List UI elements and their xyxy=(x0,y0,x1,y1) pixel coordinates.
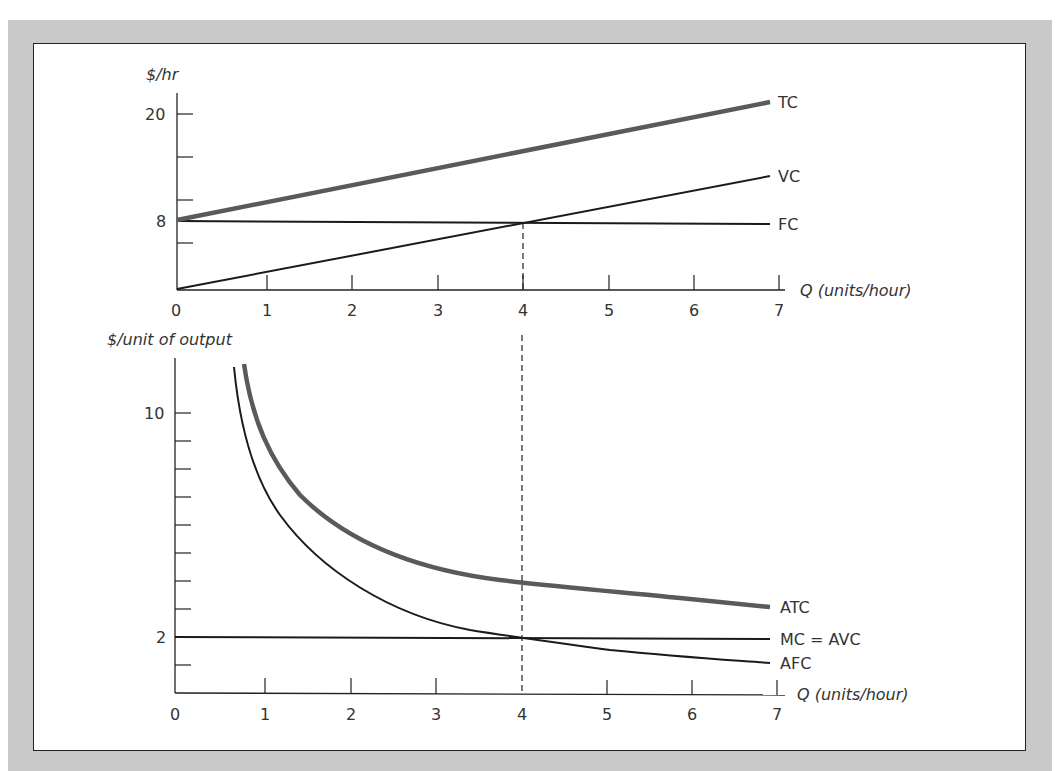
mc-avc-label: MC = AVC xyxy=(780,630,861,649)
top-y-tick-8: 8 xyxy=(156,212,166,231)
bottom-y-ticks xyxy=(175,413,191,665)
top-y-axis-label: $/hr xyxy=(146,65,180,84)
top-x-tick-7: 7 xyxy=(774,301,784,320)
top-x-tick-5: 5 xyxy=(604,301,614,320)
bottom-x-axis xyxy=(175,693,785,695)
top-origin-label: 0 xyxy=(171,301,181,320)
bottom-y-axis-label: $/unit of output xyxy=(107,330,233,349)
bottom-origin-label: 0 xyxy=(170,705,180,724)
top-chart: $/hr 20 8 0 1 2 3 4 5 6 7 Q xyxy=(145,65,912,320)
bottom-x-tick-5: 5 xyxy=(602,705,612,724)
cost-curves-figure: $/hr 20 8 0 1 2 3 4 5 6 7 Q xyxy=(0,0,1060,771)
bottom-x-tick-4: 4 xyxy=(517,705,527,724)
vc-label: VC xyxy=(778,167,800,186)
bottom-x-tick-2: 2 xyxy=(346,705,356,724)
atc-curve xyxy=(244,364,770,607)
bottom-x-tick-6: 6 xyxy=(687,705,697,724)
tc-label: TC xyxy=(777,93,798,112)
bottom-x-tick-1: 1 xyxy=(260,705,270,724)
bottom-y-tick-2: 2 xyxy=(156,628,166,647)
bottom-x-tick-3: 3 xyxy=(431,705,441,724)
bottom-y-tick-10: 10 xyxy=(144,404,164,423)
top-y-ticks xyxy=(177,114,193,243)
afc-label: AFC xyxy=(780,654,811,673)
top-x-tick-4: 4 xyxy=(518,301,528,320)
bottom-chart: $/unit of output 10 2 0 1 2 3 4 5 xyxy=(107,330,909,724)
top-x-axis-label: Q (units/hour) xyxy=(800,281,912,300)
fc-line xyxy=(177,221,770,224)
bottom-x-axis-label: Q (units/hour) xyxy=(797,685,909,704)
tc-line xyxy=(177,102,770,220)
bottom-x-tick-7: 7 xyxy=(772,705,782,724)
fc-label: FC xyxy=(778,215,798,234)
top-y-tick-20: 20 xyxy=(145,105,165,124)
top-x-tick-6: 6 xyxy=(689,301,699,320)
top-x-tick-2: 2 xyxy=(347,301,357,320)
atc-label: ATC xyxy=(780,598,810,617)
top-x-tick-1: 1 xyxy=(262,301,272,320)
vc-line xyxy=(177,176,770,289)
afc-curve xyxy=(234,367,770,663)
mc-avc-line xyxy=(175,637,770,639)
bottom-x-ticks xyxy=(265,678,777,695)
top-x-tick-3: 3 xyxy=(433,301,443,320)
